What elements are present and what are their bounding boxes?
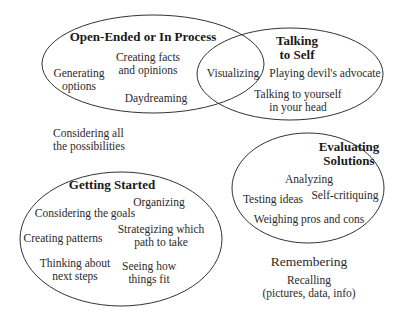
analyzing-label: Analyzing [285, 173, 333, 186]
label-line: Talking to yourself [254, 88, 341, 101]
label-line: Generating [53, 67, 104, 80]
label-line: the possibilities [53, 140, 125, 153]
remembering-label: Remembering [271, 254, 347, 269]
daydreaming-label: Daydreaming [125, 92, 188, 105]
title-line: to Self [276, 48, 318, 62]
label-line: Considering all [53, 127, 125, 140]
recalling-label: Recalling (pictures, data, info) [262, 274, 355, 299]
title-line: Evaluating [319, 140, 380, 154]
testing-ideas-label: Testing ideas [243, 193, 303, 206]
visualizing-label: Visualizing [207, 67, 259, 80]
strategizing-label: Strategizing which path to take [118, 223, 205, 248]
seeing-how-things-fit-label: Seeing how things fit [122, 260, 176, 285]
evaluating-solutions-title: Evaluating Solutions [319, 140, 380, 168]
title-line: Solutions [319, 154, 380, 168]
open-ended-title: Open-Ended or In Process [70, 30, 217, 44]
talking-to-self-title: Talking to Self [276, 34, 318, 62]
label-line: next steps [40, 270, 111, 283]
label-line: Recalling [262, 274, 355, 287]
considering-goals-label: Considering the goals [35, 207, 135, 220]
weighing-pros-cons-label: Weighing pros and cons [254, 213, 365, 226]
playing-devils-advocate-label: Playing devil's advocate [269, 67, 380, 80]
label-line: options [53, 80, 104, 93]
getting-started-title: Getting Started [69, 178, 155, 192]
label-line: in your head [254, 101, 341, 114]
organizing-label: Organizing [133, 196, 185, 209]
creating-facts-label: Creating facts and opinions [116, 51, 180, 76]
generating-options-label: Generating options [53, 67, 104, 92]
creating-patterns-label: Creating patterns [24, 232, 103, 245]
label-line: things fit [122, 273, 176, 286]
label-line: Strategizing which [118, 223, 205, 236]
label-line: (pictures, data, info) [262, 287, 355, 300]
label-line: and opinions [116, 64, 180, 77]
talking-to-yourself-label: Talking to yourself in your head [254, 88, 341, 113]
title-line: Talking [276, 34, 318, 48]
thinking-next-steps-label: Thinking about next steps [40, 257, 111, 282]
considering-possibilities-label: Considering all the possibilities [53, 127, 125, 152]
label-line: Thinking about [40, 257, 111, 270]
self-critiquing-label: Self-critiquing [311, 189, 378, 202]
label-line: path to take [118, 236, 205, 249]
label-line: Creating facts [116, 51, 180, 64]
label-line: Seeing how [122, 260, 176, 273]
